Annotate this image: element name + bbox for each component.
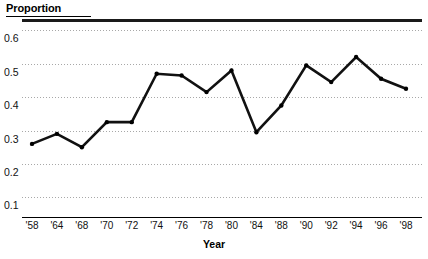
data-point-marker: [204, 90, 208, 94]
x-axis-tick-label: '78: [200, 220, 213, 232]
x-axis-tick-label: '80: [225, 220, 238, 232]
plot-area: [22, 22, 422, 214]
series-markers: [30, 55, 408, 150]
y-axis-tick-label: 0.1: [4, 199, 19, 211]
x-axis-tick-label: '64: [50, 220, 63, 232]
x-axis-tick-label: '88: [275, 220, 288, 232]
data-point-marker: [105, 120, 109, 124]
x-axis-title: Year: [0, 238, 428, 250]
x-axis-tick-label: '98: [399, 220, 412, 232]
y-axis-tick-label: 0.6: [4, 32, 19, 44]
data-point-marker: [329, 80, 333, 84]
y-axis-tick-label: 0.3: [4, 133, 19, 145]
x-axis-tick-label: '84: [250, 220, 263, 232]
y-axis-title: Proportion: [6, 2, 61, 15]
x-axis-tick-label: '70: [100, 220, 113, 232]
x-axis-line: [22, 217, 422, 218]
x-axis-tick-label: '74: [150, 220, 163, 232]
data-point-marker: [130, 120, 134, 124]
y-axis-tick-label: 0.5: [4, 66, 19, 78]
data-point-marker: [154, 72, 158, 76]
x-axis-tick-label: '68: [75, 220, 88, 232]
x-axis-tick-label: '58: [25, 220, 38, 232]
data-point-marker: [404, 87, 408, 91]
x-axis-tick-label: '72: [125, 220, 138, 232]
data-point-marker: [80, 145, 84, 149]
data-point-marker: [179, 73, 183, 77]
data-point-marker: [55, 132, 59, 136]
data-point-marker: [354, 55, 358, 59]
line-chart: Proportion 0.60.50.40.30.20.1 '58'64'68'…: [0, 0, 428, 259]
data-point-marker: [304, 63, 308, 67]
data-point-marker: [30, 142, 34, 146]
y-axis-tick-label: 0.2: [4, 166, 19, 178]
x-axis-tick-label: '92: [325, 220, 338, 232]
y-axis-tick-label: 0.4: [4, 99, 19, 111]
data-point-marker: [379, 77, 383, 81]
x-axis-tick-label: '94: [350, 220, 363, 232]
data-point-marker: [229, 68, 233, 72]
series-polyline: [32, 57, 406, 147]
data-point-marker: [254, 130, 258, 134]
data-series-line: [22, 22, 422, 214]
x-axis-tick-label: '90: [300, 220, 313, 232]
x-axis-tick-label: '76: [175, 220, 188, 232]
x-axis-tick-label: '96: [375, 220, 388, 232]
y-axis-title-underline: [6, 16, 91, 17]
data-point-marker: [279, 103, 283, 107]
